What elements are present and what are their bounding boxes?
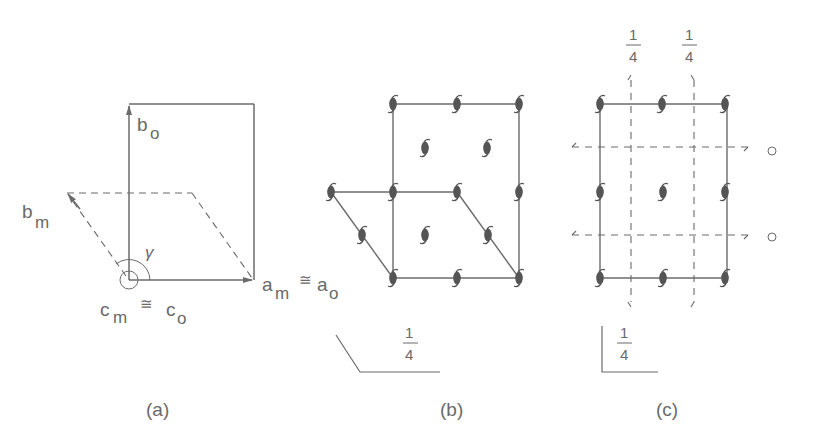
top-fraction-1-num: 1 [629,26,637,43]
twofold-screw-icon [452,183,462,200]
twofold-screw-icon [595,95,605,112]
twofold-screw-icon [482,139,492,156]
twofold-screw-icon [720,183,730,200]
label-c-m: c [100,299,110,320]
twofold-screw-icon [514,269,524,286]
twofold-screw-icon [595,269,605,286]
twofold-screw-icon [595,183,605,200]
label-b-m: b [22,201,33,222]
twofold-axis-circle-icon [768,233,776,241]
origin-marker-b [336,335,440,372]
twofold-screw-icon [388,269,398,286]
label-a-o-sub: o [329,284,338,303]
label-b-m-sub: m [35,213,49,232]
twofold-screw-icon [388,183,398,200]
caption-c: (c) [656,399,678,420]
panel-a-labels: b o b m γ c m ≅ c o a m ≅ a o (a) [22,114,338,420]
twofold-screw-icon [657,95,667,112]
fraction-c-den: 4 [620,346,628,363]
twofold-screw-icon [420,139,430,156]
twofold-screw-icon [483,226,493,243]
label-b-o: b [137,114,148,135]
panel-b-symbols [326,95,524,286]
panel-c-symbols [595,95,730,286]
twofold-screw-icon [658,183,668,200]
mono-cell-dashed [67,193,252,278]
twofold-screw-icon [326,183,336,200]
fraction-b-num: 1 [405,324,413,341]
caption-b: (b) [440,399,463,420]
b-m-axis-arrow [68,194,80,209]
label-b-o-sub: o [150,124,159,143]
fraction-c-num: 1 [620,324,628,341]
top-fraction-1-den: 4 [629,48,637,65]
twofold-screw-icon [357,226,367,243]
twofold-screw-icon [514,183,524,200]
gamma-arc [116,259,150,280]
twofold-screw-icon [420,226,430,243]
label-c-o: c [166,299,176,320]
twofold-screw-icon [452,269,462,286]
label-a-o: a [317,274,328,295]
label-a-m-sub: m [275,284,289,303]
twofold-screw-icon [720,95,730,112]
twofold-screw-icon [720,269,730,286]
twofold-screw-icon [658,269,668,286]
twofold-axis-circle-icon [768,147,776,155]
twofold-screw-icon [452,95,462,112]
fraction-b-den: 4 [405,346,413,363]
panel-c [572,45,776,372]
label-c-o-sub: o [177,309,186,328]
panel-a [67,104,254,289]
twofold-screw-icon [388,95,398,112]
top-fraction-2-num: 1 [685,26,693,43]
label-a-congruent: ≅ [299,271,312,288]
origin-marker-c [602,326,658,372]
twofold-screw-icon [514,95,524,112]
top-fraction-2-den: 4 [685,48,693,65]
label-a-m: a [262,274,273,295]
diagram-canvas: b o b m γ c m ≅ c o a m ≅ a o (a) [0,0,814,447]
caption-a: (a) [146,399,169,420]
label-gamma: γ [145,243,155,262]
label-c-m-sub: m [113,308,127,327]
label-c-congruent: ≅ [140,295,153,312]
